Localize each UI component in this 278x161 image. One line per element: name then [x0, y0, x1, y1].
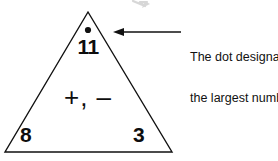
annotation-arrow-icon — [113, 28, 181, 36]
cropped-arrow-artifact-icon — [133, 1, 150, 8]
annotation-caption-line-2: the largest number. — [190, 92, 278, 106]
annotation-caption-line-1: The dot designates — [190, 51, 278, 65]
bottom-left-number: 8 — [20, 124, 32, 145]
operators-label: +, – — [0, 84, 176, 110]
largest-number-dot-icon — [85, 27, 91, 33]
apex-number: 11 — [0, 36, 176, 57]
bottom-right-number: 3 — [133, 124, 145, 145]
fact-triangle-figure: 11 +, – 8 3 The dot designates the large… — [0, 0, 278, 161]
annotation-caption: The dot designates the largest number. — [190, 24, 278, 132]
